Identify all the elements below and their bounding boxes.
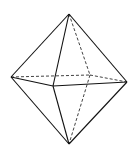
edge-top-back [69,14,90,75]
edge-top-left [11,14,69,77]
edge-front-right [53,82,127,86]
octahedron-diagram [0,0,135,148]
edge-top-right [69,14,127,82]
hidden-edges [11,14,127,144]
edge-left-back [11,75,90,77]
edge-bottom-right [69,82,127,144]
